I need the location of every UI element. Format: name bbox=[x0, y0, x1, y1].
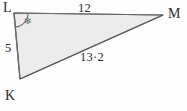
vertex-label-k: K bbox=[5, 89, 15, 103]
asterisk-angle-mark-icon: ✻ bbox=[24, 17, 32, 26]
vertex-label-l: L bbox=[3, 1, 12, 15]
side-label-lm: 12 bbox=[78, 2, 91, 15]
side-label-lk: 5 bbox=[5, 42, 12, 55]
triangle-shape bbox=[14, 13, 163, 79]
side-label-km: 13·2 bbox=[80, 51, 104, 64]
geometry-figure: L M K 12 5 13·2 ✻ bbox=[0, 0, 187, 111]
vertex-label-m: M bbox=[168, 7, 181, 21]
